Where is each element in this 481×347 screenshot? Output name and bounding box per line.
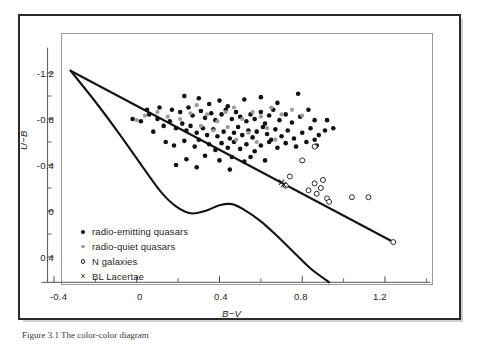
y-tick-label: -0.4 (24, 160, 54, 171)
legend-label: radio-emitting quasars (92, 226, 188, 237)
x-tick-label: 0 (137, 291, 142, 302)
x-tick-label: 0.8 (294, 291, 308, 302)
legend-item-bl-lacertae: × BL Lacertae (74, 269, 188, 284)
filled-circle-icon (74, 230, 92, 234)
legend-label: BL Lacertae (92, 271, 144, 282)
legend-label: N galaxies (92, 256, 137, 267)
x-tick-label: 0.4 (214, 291, 228, 302)
open-circle-icon (74, 259, 92, 264)
gray-circle-icon (74, 245, 92, 249)
x-tick-label: 1.2 (373, 291, 387, 302)
y-tick-label: -1.2 (24, 68, 54, 79)
y-tick-label: 0 (24, 206, 54, 217)
legend-item-radio-quiet-quasars: radio-quiet quasars (74, 239, 188, 254)
y-axis-title: U−B (18, 130, 29, 150)
y-tick-label: -0.8 (24, 114, 54, 125)
legend-label: radio-quiet quasars (92, 241, 175, 252)
figure-caption: Figure 3.1 The color-color diagram (22, 330, 472, 340)
chart-legend: radio-emitting quasars radio-quiet quasa… (74, 224, 188, 284)
chart-canvas (0, 0, 481, 347)
cross-icon: × (74, 272, 92, 281)
x-axis-title: B−V (222, 308, 241, 319)
x-tick-label: -0.4 (50, 291, 67, 302)
y-tick-label: 0.4 (24, 252, 54, 263)
legend-item-radio-emitting-quasars: radio-emitting quasars (74, 224, 188, 239)
figure-root: -1.2 -0.8 -0.4 0 0.4 -0.4 0 0.4 0.8 1.2 … (0, 0, 481, 347)
legend-item-n-galaxies: N galaxies (74, 254, 188, 269)
